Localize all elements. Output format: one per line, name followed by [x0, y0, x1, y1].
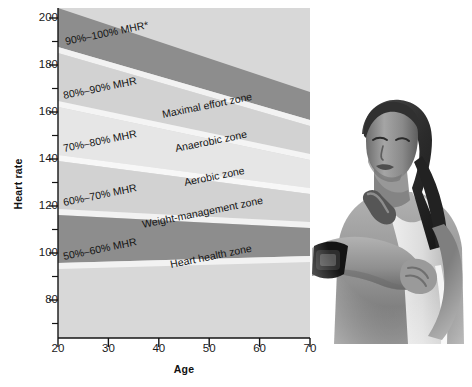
y-tick-label: 180 — [20, 58, 58, 70]
y-tick-label: 120 — [20, 199, 58, 211]
y-tick-label: 200 — [20, 11, 58, 23]
x-axis-tick-labels: 20 30 40 50 60 70 — [0, 342, 472, 364]
x-tick-label: 40 — [144, 342, 174, 354]
y-tick-label: 100 — [20, 246, 58, 258]
x-tick-label: 70 — [295, 342, 325, 354]
y-axis-tick-labels: 200 180 160 140 120 100 80 — [10, 0, 58, 387]
y-tick-label: 160 — [20, 105, 58, 117]
y-tick-label: 80 — [20, 293, 58, 305]
athlete-pulse-photo — [312, 96, 472, 344]
x-tick-label: 50 — [194, 342, 224, 354]
y-tick-label: 140 — [20, 152, 58, 164]
x-tick-label: 20 — [43, 342, 73, 354]
x-tick-label: 60 — [245, 342, 275, 354]
x-axis-title: Age — [58, 363, 310, 375]
x-tick-label: 30 — [93, 342, 123, 354]
photo-graphic — [312, 96, 472, 344]
heart-rate-zone-figure: 90%–100% MHR* 80%–90% MHR 70%–80% MHR 60… — [0, 0, 472, 387]
